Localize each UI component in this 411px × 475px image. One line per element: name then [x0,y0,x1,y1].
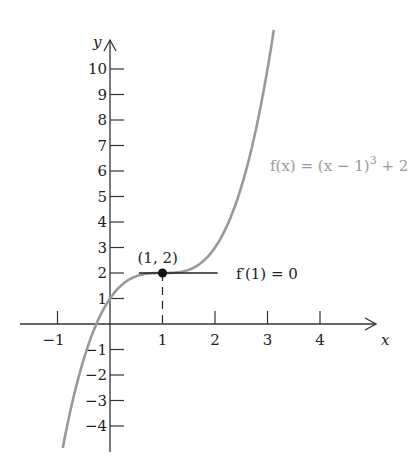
y-tick-label: 5 [97,188,107,206]
y-tick-label: 2 [97,264,107,282]
x-tick-label: 4 [315,331,325,349]
x-tick-label: −1 [42,331,64,349]
y-tick-label: −4 [85,417,107,435]
y-tick-label: 4 [97,213,107,231]
y-tick-label: 3 [97,239,107,257]
x-axis-label: x [381,331,390,349]
y-tick-label: −2 [85,366,107,384]
y-tick-label: −3 [85,392,107,410]
y-tick-label: 8 [97,111,107,129]
function-label: f(x) = (x − 1)3 + 2 [270,154,408,175]
function-plot: −11234−4−3−2−112345678910xy(1, 2)f′(1) =… [0,0,411,475]
x-tick-label: 2 [210,331,220,349]
x-tick-label: 3 [263,331,273,349]
point-marker [158,269,167,278]
y-tick-label: 6 [97,162,107,180]
y-tick-label: 10 [88,60,107,78]
function-curve [63,30,274,448]
x-tick-label: 1 [158,331,168,349]
point-label: (1, 2) [138,249,178,267]
derivative-label: f′(1) = 0 [236,265,298,283]
y-tick-label: 7 [97,137,107,155]
y-axis-label: y [92,33,102,51]
y-tick-label: 9 [97,86,107,104]
